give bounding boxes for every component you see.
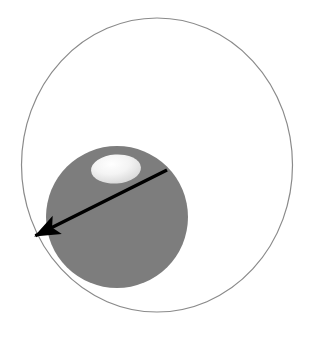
diagram-canvas <box>0 0 320 339</box>
figure-root <box>0 0 320 339</box>
